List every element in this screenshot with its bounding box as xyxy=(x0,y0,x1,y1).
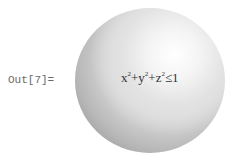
inequality-label: x2+y2+z2≤1 xyxy=(121,70,179,86)
plus-2: + xyxy=(148,70,155,85)
output-label: Out[7]= xyxy=(8,74,54,86)
rhs: 1 xyxy=(172,70,179,85)
